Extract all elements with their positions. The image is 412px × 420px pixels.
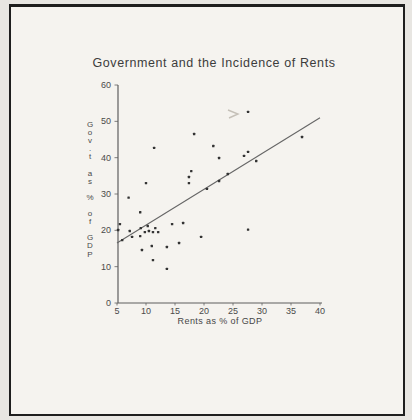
x-tick-label: 35 [286, 306, 296, 316]
x-tick-label: 5 [114, 306, 119, 316]
scanned-page: { "page": { "title": "Government and the… [0, 0, 412, 420]
data-point [127, 196, 129, 198]
data-point [247, 228, 249, 230]
data-point [145, 182, 147, 184]
data-point [140, 227, 142, 229]
data-point [193, 133, 195, 135]
data-point [247, 151, 249, 153]
data-point [153, 147, 155, 149]
data-point [121, 239, 123, 241]
y-tick-label: 50 [101, 116, 111, 126]
data-point [154, 227, 156, 229]
data-point [188, 176, 190, 178]
data-point [227, 173, 229, 175]
data-point [301, 136, 303, 138]
y-tick-label: 60 [101, 80, 111, 90]
y-tick-label: 30 [101, 189, 111, 199]
data-point [157, 231, 159, 233]
data-point [129, 230, 131, 232]
data-point [200, 236, 202, 238]
scan-artifact-mark [228, 110, 238, 118]
axes-lines [118, 85, 322, 303]
data-point [117, 229, 119, 231]
data-point [255, 160, 257, 162]
data-point [148, 230, 150, 232]
data-point [247, 111, 249, 113]
data-point [178, 242, 180, 244]
data-point [151, 245, 153, 247]
data-point [131, 236, 133, 238]
y-tick-label: 20 [101, 225, 111, 235]
data-point [206, 188, 208, 190]
data-point [139, 211, 141, 213]
y-tick-label: 10 [101, 262, 111, 272]
data-point [190, 170, 192, 172]
data-point [139, 235, 141, 237]
x-axis-label: Rents as % of GDP [118, 316, 322, 326]
data-point [218, 180, 220, 182]
x-tick-label: 20 [199, 306, 209, 316]
data-point [218, 157, 220, 159]
x-tick-label: 30 [257, 306, 267, 316]
y-tick-label: 40 [101, 153, 111, 163]
data-point [188, 182, 190, 184]
x-tick-label: 25 [228, 306, 238, 316]
x-tick-label: 40 [315, 306, 325, 316]
data-point [141, 249, 143, 251]
data-point [119, 223, 121, 225]
y-tick-label: 0 [106, 298, 111, 308]
scatter-plot: 6050403020100510152025303540 [0, 0, 412, 420]
data-point [152, 231, 154, 233]
data-point [243, 155, 245, 157]
x-tick-label: 10 [141, 306, 151, 316]
data-point [144, 231, 146, 233]
data-point [152, 259, 154, 261]
data-point [166, 246, 168, 248]
data-point [147, 225, 149, 227]
data-point [166, 268, 168, 270]
x-tick-label: 15 [170, 306, 180, 316]
data-point [212, 145, 214, 147]
data-point [182, 222, 184, 224]
data-point [171, 223, 173, 225]
